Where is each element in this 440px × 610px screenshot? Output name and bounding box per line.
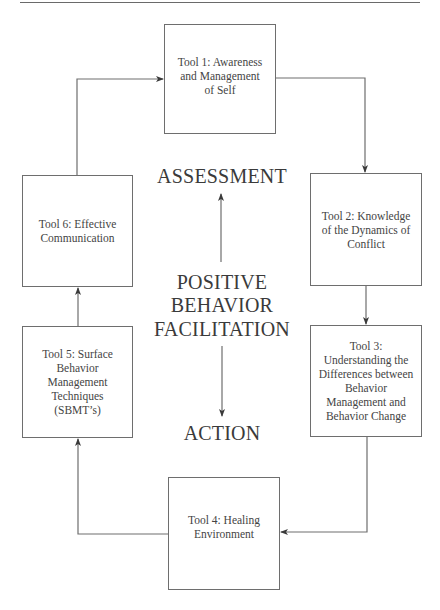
tool1-label: Tool 1: Awareness and Management of Self (178, 55, 262, 97)
tool3-box: Tool 3: Understanding the Differences be… (310, 325, 422, 437)
tool6-line: Communication (39, 231, 117, 245)
tool2-label: Tool 2: Knowledge of the Dynamics of Con… (322, 209, 411, 251)
tool3-line: Behavior (319, 381, 414, 395)
tool2-line: of the Dynamics of (322, 223, 411, 237)
tool3-line: Behavior Change (319, 409, 414, 423)
center-title-line-1: POSITIVE (140, 270, 304, 294)
edge-tool3-tool4 (281, 437, 367, 532)
tool5-line: Behavior (42, 361, 113, 375)
tool5-line: Tool 5: Surface (42, 347, 113, 361)
edge-tool1-tool2 (276, 78, 365, 172)
tool1-line: and Management (178, 69, 262, 83)
tool5-line: (SBMT’s) (42, 403, 113, 417)
tool3-line: Differences between (319, 367, 414, 381)
tool2-line: Tool 2: Knowledge (322, 209, 411, 223)
tool4-box: Tool 4: Healing Environment (168, 477, 280, 590)
tool6-box: Tool 6: Effective Communication (22, 175, 133, 287)
tool1-line: of Self (178, 83, 262, 97)
tool5-box: Tool 5: Surface Behavior Management Tech… (22, 326, 133, 438)
tool5-line: Management (42, 375, 113, 389)
tool5-label: Tool 5: Surface Behavior Management Tech… (42, 347, 113, 417)
tool2-box: Tool 2: Knowledge of the Dynamics of Con… (310, 173, 422, 286)
tool4-line: Environment (188, 527, 260, 541)
tool5-line: Techniques (42, 389, 113, 403)
tool3-line: Management and (319, 395, 414, 409)
tool2-line: Conflict (322, 237, 411, 251)
edge-tool4-tool5 (78, 439, 168, 534)
tool1-box: Tool 1: Awareness and Management of Self (164, 24, 276, 134)
tool3-line: Tool 3: (319, 339, 414, 353)
tool4-label: Tool 4: Healing Environment (188, 513, 260, 541)
center-title-line-2: BEHAVIOR (140, 293, 304, 317)
tool4-line: Tool 4: Healing (188, 513, 260, 527)
center-title-line-3: FACILITATION (140, 317, 304, 341)
edge-tool6-tool1 (77, 79, 163, 175)
tool1-line: Tool 1: Awareness (178, 55, 262, 69)
tool6-label: Tool 6: Effective Communication (39, 217, 117, 245)
tool3-label: Tool 3: Understanding the Differences be… (319, 339, 414, 423)
tool3-line: Understanding the (319, 353, 414, 367)
tool6-line: Tool 6: Effective (39, 217, 117, 231)
assessment-label: ASSESSMENT (140, 164, 304, 188)
action-label: ACTION (140, 421, 304, 445)
